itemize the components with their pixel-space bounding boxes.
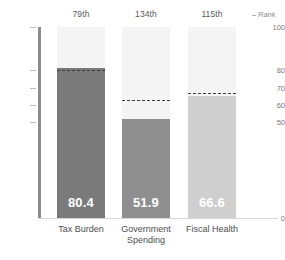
y-tick-label-60: 60	[261, 101, 285, 110]
rank-label-government-spending: 134th	[116, 9, 176, 19]
y-tick-mark-50	[30, 122, 36, 123]
y-axis-line	[38, 27, 41, 218]
rank-marker-fiscal-health	[188, 93, 236, 94]
y-tick-label-70: 70	[261, 84, 285, 93]
x-axis-baseline	[38, 218, 278, 219]
bar-government-spending: 51.9	[122, 119, 170, 218]
y-tick-label-80: 80	[261, 66, 285, 75]
bar-value-tax-burden: 80.4	[57, 195, 105, 210]
bar-value-government-spending: 51.9	[122, 195, 170, 210]
rank-marker-tax-burden	[57, 70, 105, 71]
rank-legend-dash-icon	[252, 15, 256, 16]
rank-label-fiscal-health: 115th	[182, 9, 242, 19]
rank-legend-label: Rank	[258, 10, 276, 19]
bar-value-fiscal-health: 66.6	[188, 195, 236, 210]
y-tick-label-100: 100	[261, 23, 285, 32]
rank-label-tax-burden: 79th	[51, 9, 111, 19]
y-tick-label-50: 50	[261, 118, 285, 127]
category-label-fiscal-health: Fiscal Health	[173, 224, 251, 235]
y-tick-mark-60	[30, 105, 36, 106]
bar-tax-burden: 80.4	[57, 68, 105, 218]
rank-marker-government-spending	[122, 100, 170, 101]
rank-legend: Rank	[252, 10, 276, 19]
chart-container: 79th 134th 115th Rank 100 80 70 60 50 0 …	[0, 0, 285, 260]
y-tick-mark-70	[30, 88, 36, 89]
y-tick-mark-100	[30, 27, 36, 28]
y-tick-mark-80	[30, 70, 36, 71]
bar-fiscal-health: 66.6	[188, 96, 236, 218]
